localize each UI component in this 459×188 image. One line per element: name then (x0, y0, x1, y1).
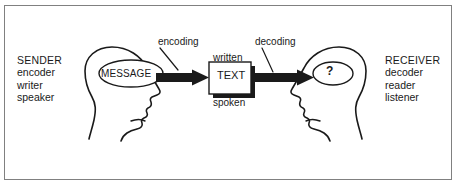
sender-mouth (131, 120, 145, 122)
sender-role-title: SENDER (17, 54, 62, 66)
decoding-arrow (251, 70, 314, 86)
written-label: written (213, 52, 242, 64)
encoding-label: encoding (158, 36, 199, 48)
decoding-label: decoding (255, 36, 296, 48)
message-bubble-label: MESSAGE (101, 68, 151, 80)
receiver-role-listener: listener (385, 91, 440, 103)
decoding-leader-line (262, 48, 273, 72)
receiver-role-reader: reader (385, 79, 440, 91)
receiver-role-block: RECEIVER decoder reader listener (385, 54, 440, 104)
sender-role-speaker: speaker (17, 91, 62, 103)
receiver-role-title: RECEIVER (385, 54, 440, 66)
encoding-arrow (156, 70, 209, 86)
receiver-head-outline (291, 47, 366, 141)
sender-role-encoder: encoder (17, 66, 62, 78)
encoding-leader-line (160, 48, 178, 70)
sender-role-writer: writer (17, 79, 62, 91)
diagram-canvas: SENDER encoder writer speaker RECEIVER d… (0, 0, 459, 188)
question-bubble-label: ? (326, 66, 333, 78)
text-box-label: TEXT (217, 70, 245, 82)
spoken-label: spoken (213, 97, 245, 109)
receiver-mouth (306, 120, 320, 122)
sender-role-block: SENDER encoder writer speaker (17, 54, 62, 104)
receiver-role-decoder: decoder (385, 66, 440, 78)
